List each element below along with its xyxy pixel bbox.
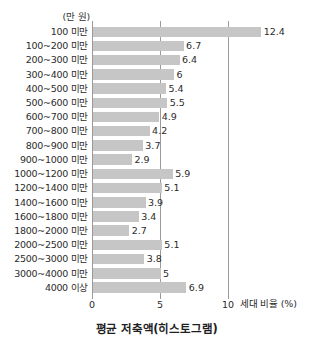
y-axis-unit-caption: (만 원): [0, 9, 90, 23]
table-row: 500~600 미만5.5: [0, 96, 313, 110]
bar: [93, 183, 162, 194]
bar: [93, 55, 180, 66]
table-row: 700~800 미만4.2: [0, 124, 313, 138]
category-label: 4000 이상: [0, 281, 88, 294]
bar: [93, 126, 150, 137]
table-row: 1400~1600 미만3.9: [0, 196, 313, 210]
category-label: 1200~1400 미만: [0, 181, 88, 194]
table-row: 200~300 미만6.4: [0, 53, 313, 67]
category-label: 2000~2500 미만: [0, 238, 88, 251]
table-row: 800~900 미만3.7: [0, 139, 313, 153]
bar: [93, 112, 160, 123]
bar-value-label: 5.5: [170, 96, 185, 109]
category-label: 900~1000 미만: [0, 153, 88, 166]
category-label: 1400~1600 미만: [0, 196, 88, 209]
table-row: 400~500 미만5.4: [0, 82, 313, 96]
table-row: 3000~4000 미만5: [0, 267, 313, 281]
table-row: 2500~3000 미만3.8: [0, 252, 313, 266]
category-label: 800~900 미만: [0, 139, 88, 152]
x-tick-0: 0: [80, 299, 104, 310]
category-label: 1800~2000 미만: [0, 224, 88, 237]
bar-value-label: 2.7: [132, 224, 147, 237]
bar-value-label: 6.7: [186, 39, 201, 52]
table-row: 4000 이상6.9: [0, 281, 313, 295]
bar: [93, 169, 173, 180]
bar: [93, 225, 130, 236]
bar: [93, 197, 146, 208]
category-label: 300~400 미만: [0, 68, 88, 81]
bar-value-label: 5: [163, 267, 169, 280]
category-label: 1600~1800 미만: [0, 210, 88, 223]
bar-value-label: 4.2: [152, 124, 167, 137]
bar: [93, 27, 262, 38]
bar-value-label: 6.9: [189, 281, 204, 294]
bar-value-label: 12.4: [264, 25, 285, 38]
bar: [93, 83, 166, 94]
bar-value-label: 2.9: [134, 153, 149, 166]
table-row: 900~1000 미만2.9: [0, 153, 313, 167]
category-label: 400~500 미만: [0, 82, 88, 95]
bar: [93, 154, 132, 165]
bar: [93, 140, 143, 151]
category-label: 3000~4000 미만: [0, 267, 88, 280]
table-row: 1600~1800 미만3.4: [0, 210, 313, 224]
category-label: 700~800 미만: [0, 124, 88, 137]
bar: [93, 254, 145, 265]
bar: [93, 240, 162, 251]
chart-title: 평균 저축액(히스토그램): [0, 320, 313, 336]
bar: [93, 41, 184, 52]
savings-histogram-chart: (만 원) 100 미만12.4100~200 미만6.7200~300 미만6…: [0, 0, 313, 344]
bar: [93, 211, 139, 222]
category-label: 100~200 미만: [0, 39, 88, 52]
table-row: 300~400 미만6: [0, 68, 313, 82]
x-tick-10: 10: [216, 299, 240, 310]
bar-value-label: 5.9: [175, 167, 190, 180]
table-row: 1000~1200 미만5.9: [0, 167, 313, 181]
bar-value-label: 6.4: [182, 53, 197, 66]
table-row: 1200~1400 미만5.1: [0, 181, 313, 195]
category-label: 600~700 미만: [0, 110, 88, 123]
bar-value-label: 3.8: [147, 252, 162, 265]
bar-value-label: 3.4: [141, 210, 156, 223]
table-row: 1800~2000 미만2.7: [0, 224, 313, 238]
x-tick-5: 5: [148, 299, 172, 310]
category-label: 1000~1200 미만: [0, 167, 88, 180]
bar: [93, 98, 168, 109]
bar: [93, 282, 187, 293]
bar-value-label: 3.7: [145, 139, 160, 152]
category-label: 200~300 미만: [0, 53, 88, 66]
table-row: 100 미만12.4: [0, 25, 313, 39]
category-label: 500~600 미만: [0, 96, 88, 109]
bar: [93, 69, 175, 80]
category-label: 2500~3000 미만: [0, 252, 88, 265]
table-row: 600~700 미만4.9: [0, 110, 313, 124]
bar-value-label: 3.9: [148, 196, 163, 209]
bar: [93, 268, 161, 279]
table-row: 100~200 미만6.7: [0, 39, 313, 53]
bar-value-label: 5.4: [168, 82, 183, 95]
category-label: 100 미만: [0, 25, 88, 38]
table-row: 2000~2500 미만5.1: [0, 238, 313, 252]
x-axis-label: 세대 비율 (%): [240, 298, 297, 309]
bar-value-label: 4.9: [162, 110, 177, 123]
bar-value-label: 5.1: [164, 238, 179, 251]
bar-value-label: 6: [177, 68, 183, 81]
bar-value-label: 5.1: [164, 181, 179, 194]
